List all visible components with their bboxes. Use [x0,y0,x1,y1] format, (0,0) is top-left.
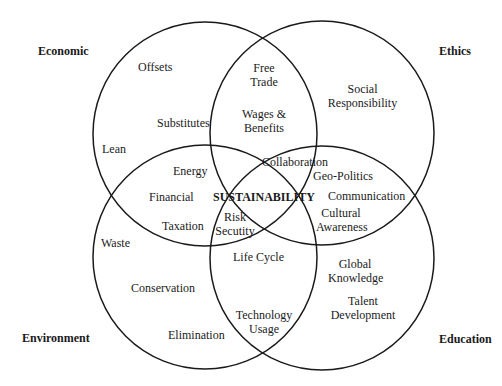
item-financial: Financial [149,190,194,204]
item-global-knowledge: Global Knowledge [328,257,382,285]
item-offsets: Offsets [138,60,172,74]
item-life-cycle: Life Cycle [233,250,284,264]
center-label-sustainability: SUSTAINABILITY [213,190,315,205]
item-wages-benefits: Wages & Benefits [236,107,292,135]
item-communication: Communication [328,189,405,203]
item-substitutes: Substitutes [157,116,210,130]
item-elimination: Elimination [168,328,225,342]
item-geo-politics: Geo-Politics [313,169,373,183]
item-cultural-awareness: Cultural Awareness [316,206,366,234]
set-title-education: Education [439,332,492,347]
item-collaboration: Collaboration [262,155,328,169]
item-risk-security: Risk Secutity [215,210,255,238]
item-energy: Energy [173,164,207,178]
item-conservation: Conservation [131,281,195,295]
item-taxation: Taxation [162,219,204,233]
set-title-economic: Economic [38,44,89,59]
set-title-environment: Environment [22,331,90,346]
item-talent-development: Talent Development [330,294,396,322]
item-free-trade: Free Trade [250,61,278,89]
item-technology-usage: Technology Usage [234,308,294,336]
item-waste: Waste [101,236,130,250]
set-title-ethics: Ethics [439,44,471,59]
item-social-responsibility: Social Responsibility [325,82,400,110]
item-lean: Lean [102,142,126,156]
